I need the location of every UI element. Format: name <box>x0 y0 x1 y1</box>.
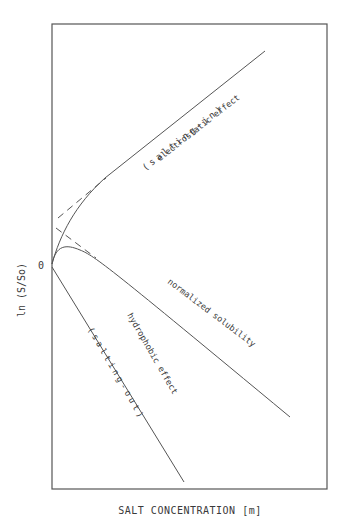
y-axis-label: ln (S/So) <box>16 263 27 317</box>
plot-frame <box>52 24 327 489</box>
annotation-normalized-solubility: normalized solubility <box>166 276 258 349</box>
y-zero-tick: 0 <box>38 260 44 271</box>
annotation-hydrophobic-effect: hydrophobic effect <box>125 311 180 396</box>
x-axis-label: SALT CONCENTRATION [m] <box>118 505 261 516</box>
electrostatic-asymptote <box>58 178 106 218</box>
chart-svg: 0 ln (S/So) SALT CONCENTRATION [m] (salt… <box>0 0 344 525</box>
annotation-salting-out: (salting-out) <box>86 325 147 421</box>
solubility-asymptote <box>56 228 96 258</box>
